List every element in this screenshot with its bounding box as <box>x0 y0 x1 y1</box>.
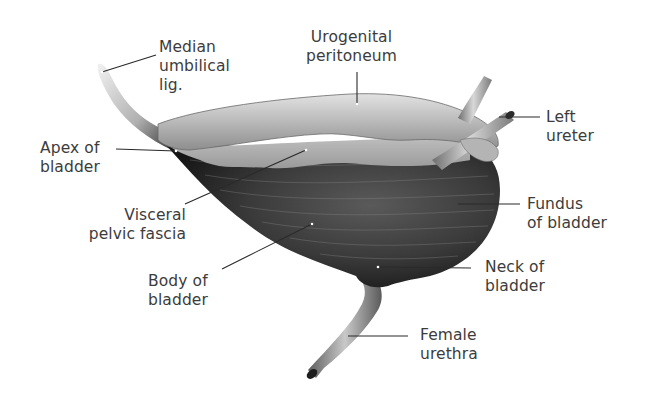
label-line: Visceral <box>68 206 186 225</box>
label-line: Median <box>159 38 230 57</box>
label-line: lig. <box>159 76 230 95</box>
label-female-urethra: Female urethra <box>420 326 478 364</box>
label-left-ureter: Left ureter <box>546 108 594 146</box>
label-apex-of-bladder: Apex of bladder <box>40 139 100 177</box>
label-neck-of-bladder: Neck of bladder <box>485 258 545 296</box>
label-line: umbilical <box>159 57 230 76</box>
label-line: peritoneum <box>306 47 397 66</box>
label-median-umbilical-lig: Median umbilical lig. <box>159 38 230 95</box>
label-line: bladder <box>40 158 100 177</box>
label-line: Female <box>420 326 478 345</box>
label-line: urethra <box>420 345 478 364</box>
label-line: Urogenital <box>306 28 397 47</box>
label-fundus-of-bladder: Fundus of bladder <box>527 195 607 233</box>
label-line: bladder <box>148 291 208 310</box>
label-line: of bladder <box>527 214 607 233</box>
label-line: Fundus <box>527 195 607 214</box>
anatomy-figure: Median umbilical lig. Urogenital periton… <box>0 0 646 409</box>
label-body-of-bladder: Body of bladder <box>148 272 208 310</box>
label-line: ureter <box>546 127 594 146</box>
label-visceral-pelvic-fascia: Visceral pelvic fascia <box>68 206 186 244</box>
label-line: Neck of <box>485 258 545 277</box>
label-urogenital-peritoneum: Urogenital peritoneum <box>306 28 397 66</box>
label-line: bladder <box>485 277 545 296</box>
label-line: pelvic fascia <box>68 225 186 244</box>
label-line: Apex of <box>40 139 100 158</box>
label-line: Left <box>546 108 594 127</box>
label-line: Body of <box>148 272 208 291</box>
